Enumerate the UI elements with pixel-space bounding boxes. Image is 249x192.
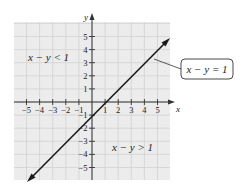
x-tick-label: 2 bbox=[116, 105, 120, 115]
y-tick-label: −1 bbox=[78, 110, 87, 120]
region-lower-label: x − y > 1 bbox=[111, 141, 153, 153]
y-axis-label: y bbox=[83, 12, 88, 22]
y-tick-label: 1 bbox=[83, 84, 87, 94]
x-tick-label: 3 bbox=[129, 105, 133, 115]
x-axis-arrow-icon bbox=[168, 100, 175, 105]
x-tick-label: 1 bbox=[103, 105, 107, 115]
y-tick-label: −3 bbox=[78, 136, 87, 146]
y-tick-label: 5 bbox=[83, 32, 87, 42]
x-tick-label: −3 bbox=[48, 105, 57, 115]
y-tick-label: 2 bbox=[83, 71, 87, 81]
region-upper-label: x − y < 1 bbox=[27, 51, 69, 63]
x-tick-label: 4 bbox=[142, 105, 147, 115]
callout-label: x − y = 1 bbox=[185, 63, 227, 75]
y-tick-label: −5 bbox=[78, 163, 87, 173]
y-tick-label: −4 bbox=[78, 149, 88, 159]
x-axis-label: x bbox=[175, 104, 180, 114]
x-tick-label: −4 bbox=[35, 105, 45, 115]
x-tick-label: −5 bbox=[22, 105, 31, 115]
y-tick-label: 3 bbox=[83, 58, 87, 68]
x-tick-label: −2 bbox=[61, 105, 70, 115]
x-tick-label: 5 bbox=[155, 105, 159, 115]
y-axis-arrow-icon bbox=[90, 13, 95, 20]
inequality-graph: x y −5−4−3−2−112345−5−4−3−2−112345 x − y… bbox=[0, 0, 249, 192]
